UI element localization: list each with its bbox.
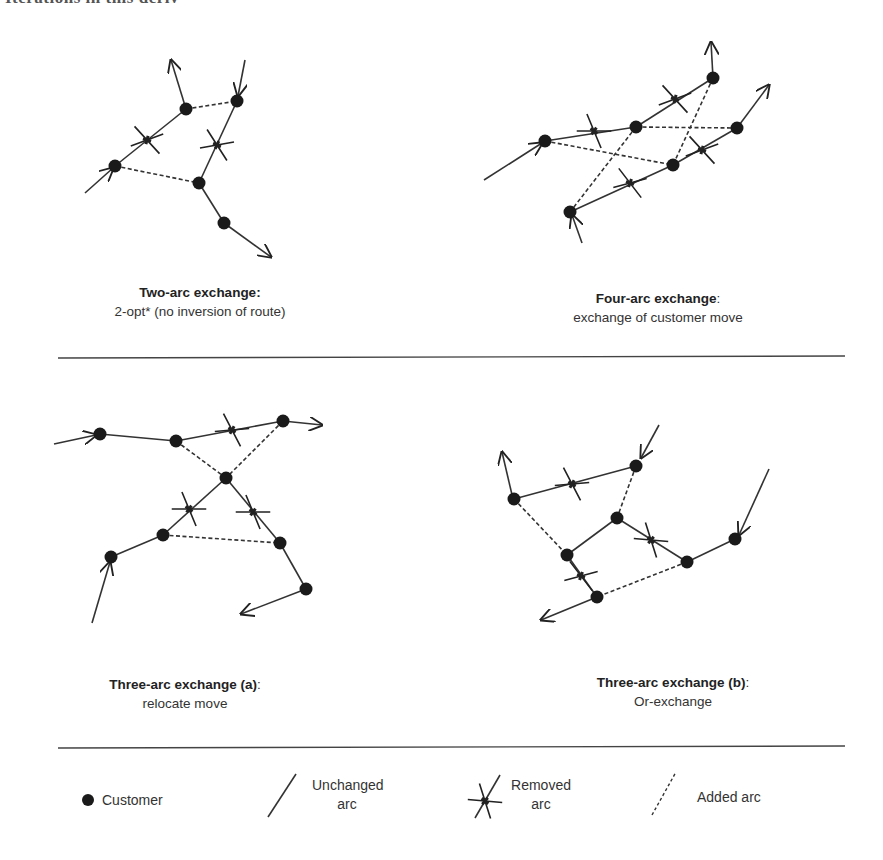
customer-node	[561, 549, 574, 562]
panel-title: Three-arc exchange (b)	[597, 675, 746, 690]
panel-three-arc-b-diagram	[502, 425, 769, 620]
divider-top	[58, 356, 845, 358]
customer-node	[681, 556, 694, 569]
customer-node	[630, 121, 643, 134]
customer-node	[220, 472, 233, 485]
customer-node	[157, 529, 170, 542]
panel-subtitle: Or-exchange	[568, 692, 778, 711]
panel-title: Three-arc exchange (a)	[109, 677, 257, 692]
customer-node	[300, 583, 313, 596]
panel-subtitle: relocate move	[80, 694, 290, 713]
customer-node	[105, 551, 118, 564]
customer-node	[539, 135, 552, 148]
panel-title: Four-arc exchange	[596, 291, 717, 306]
panel-three-arc-a-customers	[94, 415, 313, 596]
panel-subtitle: exchange of customer move	[553, 308, 763, 327]
unchanged-arc-legend-icon	[268, 774, 296, 817]
customer-node	[667, 159, 680, 172]
panel-four-arc-caption: Four-arc exchange: exchange of customer …	[553, 289, 763, 327]
removed-arc-legend-icon	[466, 775, 503, 820]
legend-removed-label: Removed arc	[510, 776, 572, 814]
legend-unchanged-label: Unchanged arc	[312, 776, 382, 814]
panel-three-arc-a-caption: Three-arc exchange (a): relocate move	[80, 675, 290, 713]
customer-node	[170, 435, 183, 448]
panel-title: Two-arc exchange:	[139, 285, 260, 300]
legend-added-label: Added arc	[697, 788, 761, 807]
route-exchange-diagram	[0, 0, 883, 860]
panel-subtitle: 2-opt* (no inversion of route)	[95, 302, 305, 321]
customer-node	[564, 206, 577, 219]
customer-node	[231, 95, 244, 108]
customer-node	[630, 460, 643, 473]
customer-node	[508, 493, 521, 506]
divider-bottom	[58, 746, 845, 748]
customer-node	[94, 428, 107, 441]
panel-three-arc-b-customers	[508, 460, 742, 604]
panel-two-arc-customers	[109, 95, 244, 230]
customer-node	[707, 72, 720, 85]
panel-four-arc-diagram	[484, 42, 769, 243]
customer-node	[274, 537, 287, 550]
customer-node	[591, 591, 604, 604]
customer-node	[611, 512, 624, 525]
customer-node	[109, 160, 122, 173]
customer-node	[731, 122, 744, 135]
customer-node	[729, 533, 742, 546]
customer-node	[218, 217, 231, 230]
customer-node	[193, 177, 206, 190]
customer-node	[180, 103, 193, 116]
panel-three-arc-b-caption: Three-arc exchange (b): Or-exchange	[568, 673, 778, 711]
customer-node	[277, 415, 290, 428]
panel-three-arc-a-diagram	[54, 408, 322, 623]
panel-two-arc-diagram	[85, 60, 271, 257]
legend-customer-label: Customer	[102, 791, 163, 810]
panel-two-arc-caption: Two-arc exchange: 2-opt* (no inversion o…	[95, 283, 305, 321]
added-arc-legend-icon	[652, 772, 676, 815]
customer-legend-icon	[82, 794, 94, 806]
